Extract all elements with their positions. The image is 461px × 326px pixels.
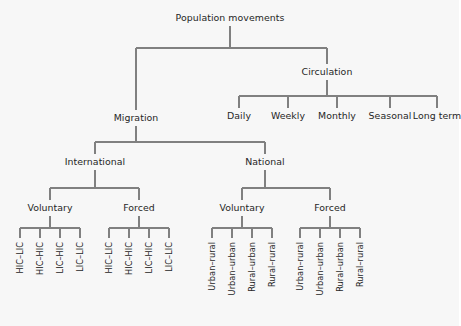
- node-circulation-daily: Daily: [227, 111, 251, 120]
- leaf-natl-voluntary-4: Rural–rural: [268, 242, 276, 287]
- leaf-natl-forced-4: Rural–rural: [356, 242, 364, 287]
- node-migration: Migration: [114, 113, 159, 122]
- leaf-natl-forced-2: Urban–urban: [316, 242, 324, 295]
- leaf-natl-forced-1: Urban–rural: [296, 242, 304, 291]
- leaf-label: Rural–rural: [356, 242, 364, 287]
- leaf-intl-forced-1: HIC–LIC: [105, 242, 113, 273]
- leaf-natl-forced-3: Rural–urban: [336, 242, 344, 292]
- leaf-label: Rural–rural: [268, 242, 276, 287]
- leaf-label: Rural–urban: [336, 242, 344, 292]
- node-circulation-weekly: Weekly: [271, 111, 305, 120]
- node-national: National: [245, 157, 284, 166]
- leaf-label: LIC–LIC: [165, 242, 173, 272]
- leaf-label: Urban–urban: [228, 242, 236, 295]
- node-national-voluntary: Voluntary: [219, 203, 264, 212]
- leaf-label: Urban–rural: [296, 242, 304, 291]
- leaf-intl-voluntary-3: LIC–HIC: [56, 242, 64, 273]
- leaf-intl-voluntary-1: HIC–LIC: [16, 242, 24, 273]
- leaf-label: LIC–HIC: [145, 242, 153, 273]
- leaf-intl-voluntary-4: LIC–LIC: [76, 242, 84, 272]
- leaf-intl-forced-3: LIC–HIC: [145, 242, 153, 273]
- node-national-forced: Forced: [314, 203, 346, 212]
- leaf-label: Rural–urban: [248, 242, 256, 292]
- node-population-movements: Population movements: [176, 13, 285, 22]
- node-circulation-seasonal: Seasonal: [369, 111, 412, 120]
- leaf-label: HIC–LIC: [105, 242, 113, 273]
- node-circulation-long-term: Long term: [413, 111, 461, 120]
- leaf-natl-voluntary-3: Rural–urban: [248, 242, 256, 292]
- leaf-label: Urban–rural: [208, 242, 216, 291]
- leaf-label: LIC–LIC: [76, 242, 84, 272]
- leaf-natl-voluntary-2: Urban–urban: [228, 242, 236, 295]
- node-international: International: [65, 157, 125, 166]
- node-circulation: Circulation: [302, 67, 353, 76]
- node-circulation-monthly: Monthly: [318, 111, 356, 120]
- node-international-forced: Forced: [123, 203, 155, 212]
- leaf-label: HIC–HIC: [125, 242, 133, 275]
- leaf-label: HIC–LIC: [16, 242, 24, 273]
- leaf-natl-voluntary-1: Urban–rural: [208, 242, 216, 291]
- leaf-label: Urban–urban: [316, 242, 324, 295]
- leaf-label: HIC–HIC: [36, 242, 44, 275]
- leaf-intl-voluntary-2: HIC–HIC: [36, 242, 44, 275]
- node-international-voluntary: Voluntary: [27, 203, 72, 212]
- leaf-label: LIC–HIC: [56, 242, 64, 273]
- leaf-intl-forced-4: LIC–LIC: [165, 242, 173, 272]
- leaf-intl-forced-2: HIC–HIC: [125, 242, 133, 275]
